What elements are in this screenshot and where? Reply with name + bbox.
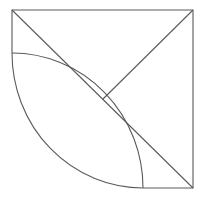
- geometric-figure: Geometric figure: square with quarter ar…: [0, 0, 206, 199]
